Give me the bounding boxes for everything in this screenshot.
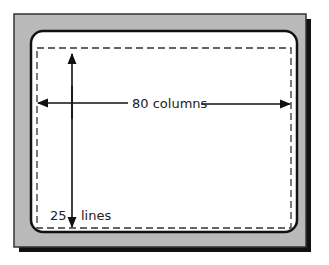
lines-number-label: 25 bbox=[50, 208, 67, 223]
monitor-screen-diagram: 80 columns 25 lines bbox=[0, 0, 329, 265]
columns-label: 80 columns bbox=[132, 96, 208, 111]
screen-area bbox=[31, 31, 297, 232]
lines-word-label: lines bbox=[81, 208, 111, 223]
